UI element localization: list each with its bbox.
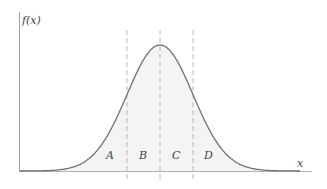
region-label-d: D bbox=[203, 149, 213, 162]
x-axis-label: x bbox=[297, 157, 304, 170]
region-label-a: A bbox=[105, 149, 114, 162]
region-label-c: C bbox=[172, 149, 181, 162]
region-label-b: B bbox=[138, 149, 147, 162]
y-axis-label: f(x) bbox=[21, 14, 41, 27]
normal-distribution-diagram: f(x) x A B C D bbox=[0, 0, 327, 189]
